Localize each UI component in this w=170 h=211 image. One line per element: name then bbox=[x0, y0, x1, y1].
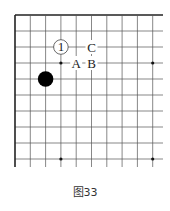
star-point bbox=[151, 61, 154, 64]
go-board-grid: CAB1 bbox=[0, 0, 170, 175]
star-point bbox=[59, 157, 62, 160]
marker-label-a: A bbox=[72, 56, 82, 71]
stone-move-number: 1 bbox=[58, 39, 65, 54]
star-point bbox=[59, 61, 62, 64]
marker-label-b: B bbox=[87, 56, 96, 71]
star-point bbox=[151, 157, 154, 160]
go-board: CAB1 bbox=[0, 0, 170, 175]
marker-label-c: C bbox=[87, 40, 96, 55]
black-stone bbox=[38, 71, 54, 87]
figure-caption: 图33 bbox=[0, 183, 170, 199]
